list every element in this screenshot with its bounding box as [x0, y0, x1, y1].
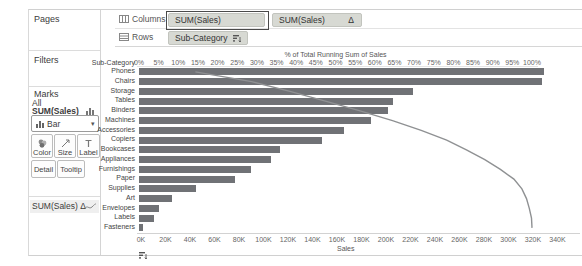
row-label: Art	[91, 193, 135, 203]
rows-shelf: Rows	[119, 32, 153, 42]
bottom-axis-tick: 80K	[226, 236, 252, 243]
table-calc-delta-symbol: Δ	[348, 14, 354, 27]
filters-shelf-label: Filters	[34, 55, 59, 65]
pages-shelf-label: Pages	[34, 14, 60, 24]
marks-tab-sum-sales-delta[interactable]: SUM(Sales) Δ	[30, 200, 99, 213]
pareto-chart: % of Total Running Sum of Sales0%5%10%15…	[101, 47, 582, 255]
tooltip-button-label: Tooltip	[60, 165, 82, 174]
rows-shelf-label: Rows	[132, 32, 153, 42]
row-label: Accessories	[91, 125, 135, 135]
row-label: Binders	[91, 105, 135, 115]
row-label: Labels	[91, 212, 135, 222]
bottom-axis-tick: 280K	[471, 236, 497, 243]
bottom-axis-tick: 340K	[545, 236, 571, 243]
bottom-axis-tick: 200K	[373, 236, 399, 243]
sales-bar[interactable]	[139, 176, 235, 183]
sales-bar[interactable]	[139, 78, 542, 85]
bottom-axis-tick: 300K	[496, 236, 522, 243]
columns-shelf-label: Columns	[132, 14, 166, 24]
sort-descending-icon[interactable]	[139, 252, 556, 260]
bottom-axis-tick: 320K	[520, 236, 546, 243]
columns-pill-sum-sales[interactable]: SUM(Sales)	[168, 13, 265, 27]
worksheet-content: Pages Filters Marks All SUM(Sales) Bar ▾	[28, 9, 582, 256]
sales-bar[interactable]	[139, 98, 393, 105]
row-label: Tables	[91, 95, 135, 105]
sales-bar[interactable]	[139, 68, 544, 75]
mark-type-value: Bar	[47, 119, 60, 129]
sales-bar[interactable]	[139, 205, 159, 212]
bottom-axis-tick: 120K	[275, 236, 301, 243]
row-label: Machines	[91, 115, 135, 125]
sales-bar[interactable]	[139, 156, 271, 163]
size-icon	[61, 139, 70, 148]
sales-bar[interactable]	[139, 215, 154, 222]
sales-bar[interactable]	[139, 146, 280, 153]
row-label: Copiers	[91, 134, 135, 144]
bottom-axis-tick: 220K	[398, 236, 424, 243]
row-label: Supplies	[91, 183, 135, 193]
row-label: Storage	[91, 86, 135, 96]
bottom-axis-title-label: Sales	[337, 245, 355, 252]
color-button-label: Color	[33, 148, 51, 157]
rows-icon	[119, 33, 129, 41]
size-button-label: Size	[58, 148, 73, 157]
sort-descending-icon[interactable]	[233, 35, 241, 43]
bottom-axis-tick: 0K	[128, 236, 154, 243]
bottom-axis-tick: 260K	[447, 236, 473, 243]
sales-bar[interactable]	[139, 224, 143, 231]
rows-pill-sub-category-label: Sub-Category	[175, 33, 227, 43]
bottom-axis-line	[137, 233, 580, 234]
row-label: Appliances	[91, 154, 135, 164]
row-label: Envelopes	[91, 203, 135, 213]
sales-bar[interactable]	[139, 137, 322, 144]
bottom-axis-tick: 240K	[422, 236, 448, 243]
side-panel: Pages Filters Marks All SUM(Sales) Bar ▾	[29, 10, 100, 255]
sales-bar[interactable]	[139, 127, 344, 134]
columns-pill-sum-sales-label: SUM(Sales)	[175, 15, 221, 25]
detail-button[interactable]: Detail	[31, 160, 56, 178]
size-button[interactable]: Size	[54, 134, 76, 158]
columns-icon	[119, 15, 129, 23]
top-axis-tick: 100%	[521, 59, 543, 66]
detail-button-label: Detail	[34, 165, 53, 174]
marks-tab-sum-sales-delta-label: SUM(Sales) Δ	[32, 201, 86, 211]
row-label: Phones	[91, 66, 135, 76]
bottom-axis-tick: 40K	[177, 236, 203, 243]
bottom-axis-tick: 100K	[251, 236, 277, 243]
row-label: Paper	[91, 173, 135, 183]
sales-bar[interactable]	[139, 195, 172, 202]
bottom-axis-tick: 140K	[300, 236, 326, 243]
bar-mark-type-icon	[36, 120, 44, 128]
rows-pill-sub-category[interactable]: Sub-Category	[168, 31, 248, 45]
top-axis-title: % of Total Running Sum of Sales	[139, 51, 532, 58]
bottom-axis-tick: 180K	[349, 236, 375, 243]
row-label: Fasteners	[91, 222, 135, 232]
bottom-axis-tick: 60K	[202, 236, 228, 243]
color-button[interactable]: Color	[31, 134, 53, 158]
divider	[29, 196, 100, 197]
divider	[29, 50, 100, 51]
columns-pill-sum-sales-delta-label: SUM(Sales)	[279, 15, 325, 25]
row-label: Furnishings	[91, 164, 135, 174]
mark-type-dropdown[interactable]: Bar ▾	[31, 115, 99, 132]
sales-bar[interactable]	[139, 107, 388, 114]
color-icon	[38, 139, 47, 148]
row-label: Chairs	[91, 76, 135, 86]
sales-bar[interactable]	[139, 88, 413, 95]
sales-bar[interactable]	[139, 166, 251, 173]
row-label: Bookcases	[91, 144, 135, 154]
sales-bar[interactable]	[139, 117, 371, 124]
bottom-axis-title: Sales	[139, 245, 556, 260]
columns-shelf: Columns	[119, 14, 166, 24]
bottom-axis-tick: 160K	[324, 236, 350, 243]
columns-pill-sum-sales-delta[interactable]: SUM(Sales) Δ	[272, 13, 362, 27]
top-axis-line	[137, 66, 538, 67]
tableau-worksheet: Pages Filters Marks All SUM(Sales) Bar ▾	[0, 0, 582, 266]
divider	[29, 86, 100, 87]
sales-bar[interactable]	[139, 185, 196, 192]
tooltip-button[interactable]: Tooltip	[57, 160, 85, 178]
bottom-axis-tick: 20K	[153, 236, 179, 243]
